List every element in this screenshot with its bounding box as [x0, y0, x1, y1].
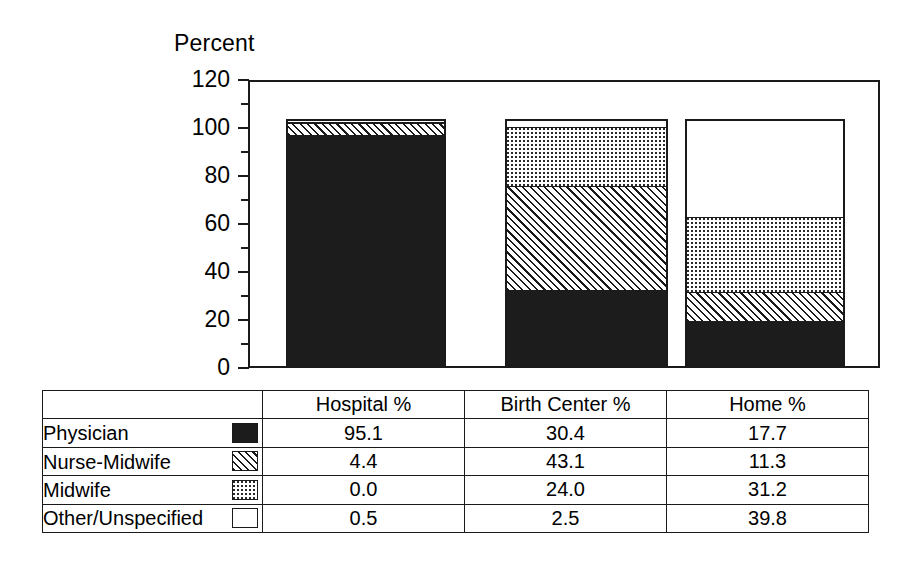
y-tick-label-40: 40	[160, 260, 230, 283]
bar-birth-center	[505, 119, 668, 366]
y-tick-label-60: 60	[160, 212, 230, 235]
row-label-text: Physician	[43, 422, 129, 445]
plot-area	[248, 80, 880, 368]
white-swatch-icon	[232, 508, 258, 528]
bar-segment-other-unspecified	[507, 121, 666, 128]
y-tick-label-20: 20	[160, 308, 230, 331]
bar-segment-midwife	[687, 218, 843, 294]
row-label-midwife: Midwife	[43, 476, 263, 504]
row-label-nurse-midwife: Nurse-Midwife	[43, 447, 263, 475]
table-row: Other/Unspecified 0.5 2.5 39.8	[43, 504, 869, 532]
cell-nurse-midwife-hospital: 4.4	[263, 447, 465, 475]
table-header-birth-center: Birth Center %	[465, 391, 667, 419]
y-tick-label-80: 80	[160, 164, 230, 187]
bar-segment-nurse-midwife	[687, 293, 843, 321]
diagonal-hatch-swatch-icon	[232, 451, 258, 471]
cell-midwife-home: 31.2	[667, 476, 869, 504]
checkered-swatch-icon	[232, 480, 258, 500]
bar-segment-physician	[507, 291, 666, 364]
row-label-other-unspecified: Other/Unspecified	[43, 504, 263, 532]
cell-other-hospital: 0.5	[263, 504, 465, 532]
row-label-text: Other/Unspecified	[43, 507, 203, 530]
cell-physician-hospital: 95.1	[263, 419, 465, 447]
legend-data-table: Hospital % Birth Center % Home % Physici…	[42, 390, 869, 533]
cell-other-home: 39.8	[667, 504, 869, 532]
cell-nurse-midwife-birth-center: 43.1	[465, 447, 667, 475]
cell-nurse-midwife-home: 11.3	[667, 447, 869, 475]
y-tick-label-0: 0	[160, 356, 230, 379]
bar-segment-midwife	[288, 123, 444, 124]
cell-physician-birth-center: 30.4	[465, 419, 667, 447]
bar-segment-other-unspecified	[288, 121, 444, 123]
table-header-blank	[43, 391, 263, 419]
table-header-home: Home %	[667, 391, 869, 419]
table-row: Nurse-Midwife 4.4 43.1 11.3	[43, 447, 869, 475]
table-header-hospital: Hospital %	[263, 391, 465, 419]
cell-midwife-hospital: 0.0	[263, 476, 465, 504]
bar-segment-physician	[288, 136, 444, 364]
bar-home	[685, 119, 845, 366]
table-row: Physician 95.1 30.4 17.7	[43, 419, 869, 447]
solid-black-swatch-icon	[232, 423, 258, 443]
bar-segment-physician	[687, 322, 843, 365]
y-axis-title: Percent	[174, 30, 255, 57]
stacked-bar-chart: Percent 120 100 80 60 40 20 0	[0, 0, 918, 563]
table-row: Midwife 0.0 24.0 31.2	[43, 476, 869, 504]
row-label-text: Nurse-Midwife	[43, 451, 171, 474]
y-tick-label-120: 120	[160, 68, 230, 91]
bar-segment-other-unspecified	[687, 121, 843, 218]
row-label-physician: Physician	[43, 419, 263, 447]
cell-physician-home: 17.7	[667, 419, 869, 447]
cell-other-birth-center: 2.5	[465, 504, 667, 532]
y-tick-label-100: 100	[160, 116, 230, 139]
cell-midwife-birth-center: 24.0	[465, 476, 667, 504]
bar-segment-nurse-midwife	[507, 187, 666, 291]
bar-segment-nurse-midwife	[288, 124, 444, 136]
table-header-row: Hospital % Birth Center % Home %	[43, 391, 869, 419]
bar-hospital	[286, 119, 446, 366]
row-label-text: Midwife	[43, 479, 111, 502]
bar-segment-midwife	[507, 128, 666, 187]
